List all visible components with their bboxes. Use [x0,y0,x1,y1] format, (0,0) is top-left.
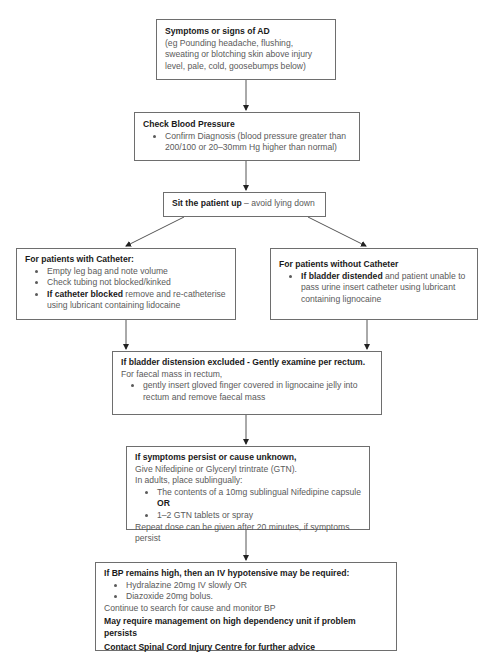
box-rectum-text: For faecal mass in rectum, [121,369,373,381]
box-iv-bold2: Contact Spinal Cord Injury Centre for fu… [104,642,388,654]
box-iv-line1: Continue to search for cause and monitor… [104,603,388,615]
without-catheter-bullet-1: If bladder distended and patient unable … [301,271,469,306]
box-medication-line2: In adults, place sublingually: [135,475,361,487]
medication-bullet-2: 1–2 GTN tablets or spray [157,510,361,522]
box-symptoms-title: Symptoms or signs of AD [165,26,327,38]
box-check-bp: Check Blood Pressure Confirm Diagnosis (… [134,112,360,161]
without-catheter-bullet-1-bold: If bladder distended [301,271,383,281]
iv-bullet-2: Diazoxide 20mg bolus. [126,591,388,603]
with-catheter-bullet-3-bold: If catheter blocked [47,289,123,299]
box-medication: If symptoms persist or cause unknown, Gi… [126,446,370,530]
box-sit-up: Sit the patient up – avoid lying down [163,192,326,217]
with-catheter-bullet-3: If catheter blocked remove and re-cathet… [47,289,227,312]
with-catheter-bullet-2: Check tubing not blocked/kinked [47,277,227,289]
box-with-catheter: For patients with Catheter: Empty leg ba… [16,248,236,320]
box-sit-up-text: – avoid lying down [242,198,315,208]
box-rectum-bullet: gently insert gloved finger covered in l… [143,380,373,403]
box-without-catheter-title: For patients without Catheter [279,259,469,271]
with-catheter-bullet-1: Empty leg bag and note volume [47,266,227,278]
box-with-catheter-title: For patients with Catheter: [25,254,227,266]
box-iv-hypotensive: If BP remains high, then an IV hypotensi… [95,562,397,651]
medication-bullet-1: The contents of a 10mg sublingual Nifedi… [157,487,361,510]
medication-bullet-1-text: The contents of a 10mg sublingual Nifedi… [157,487,361,497]
box-iv-bold1: May require management on high dependenc… [104,616,388,639]
box-medication-line3: Repeat dose can be given after 20 minute… [135,522,361,545]
medication-bullet-1-bold: OR [157,498,170,508]
box-check-bp-bullet: Confirm Diagnosis (blood pressure greate… [165,131,351,154]
box-medication-line1: Give Nifedipine or Glyceryl trintrate (G… [135,464,361,476]
box-check-bp-title: Check Blood Pressure [143,119,351,131]
box-symptoms: Symptoms or signs of AD (eg Pounding hea… [156,19,336,80]
box-rectum: If bladder distension excluded - Gently … [112,351,382,415]
box-medication-title: If symptoms persist or cause unknown, [135,452,361,464]
box-sit-up-title: Sit the patient up [172,198,242,208]
iv-bullet-1: Hydralazine 20mg IV slowly OR [126,580,388,592]
box-rectum-title: If bladder distension excluded - Gently … [121,357,373,369]
box-without-catheter: For patients without Catheter If bladder… [270,248,478,320]
box-iv-title: If BP remains high, then an IV hypotensi… [104,568,388,580]
box-symptoms-text: (eg Pounding headache, flushing, sweatin… [165,38,327,73]
